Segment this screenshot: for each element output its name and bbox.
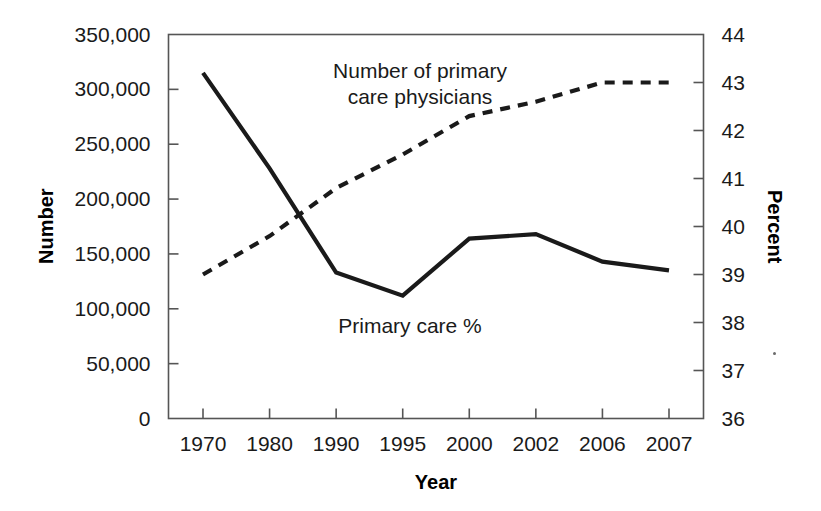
left-axis-tick-label: 50,000 xyxy=(0,353,151,374)
left-axis-ticks xyxy=(169,89,179,363)
right-axis-tick-label: 42 xyxy=(722,120,745,141)
series-line-percent xyxy=(203,83,669,275)
right-axis-tick-label: 41 xyxy=(722,168,745,189)
left-axis-tick-label: 250,000 xyxy=(0,133,151,154)
right-axis-tick-label: 36 xyxy=(722,408,745,429)
x-axis-tick-label: 2007 xyxy=(629,433,709,454)
left-axis-tick-label: 200,000 xyxy=(0,188,151,209)
left-axis-tick-label: 150,000 xyxy=(0,243,151,264)
print-speck xyxy=(773,352,776,355)
x-axis-title: Year xyxy=(415,472,457,492)
chart-figure: 050,000100,000150,000200,000250,000300,0… xyxy=(0,0,821,511)
left-axis-tick-label: 300,000 xyxy=(0,78,151,99)
left-axis-tick-label: 100,000 xyxy=(0,298,151,319)
y-axis-title-right: Percent xyxy=(765,190,785,263)
right-axis-tick-label: 37 xyxy=(722,360,745,381)
left-axis-tick-label: 350,000 xyxy=(0,24,151,45)
right-axis-tick-label: 38 xyxy=(722,312,745,333)
right-axis-tick-label: 44 xyxy=(722,24,745,45)
right-axis-tick-label: 40 xyxy=(722,216,745,237)
right-axis-tick-label: 43 xyxy=(722,72,745,93)
y-axis-title-left: Number xyxy=(36,189,56,265)
right-axis-ticks xyxy=(694,83,704,371)
left-axis-tick-label: 0 xyxy=(0,408,151,429)
series-annotation-number: Number of primary care physicians xyxy=(290,58,550,109)
right-axis-tick-label: 39 xyxy=(722,264,745,285)
series-annotation-percent: Primary care % xyxy=(310,313,510,339)
x-axis-ticks xyxy=(203,409,669,419)
